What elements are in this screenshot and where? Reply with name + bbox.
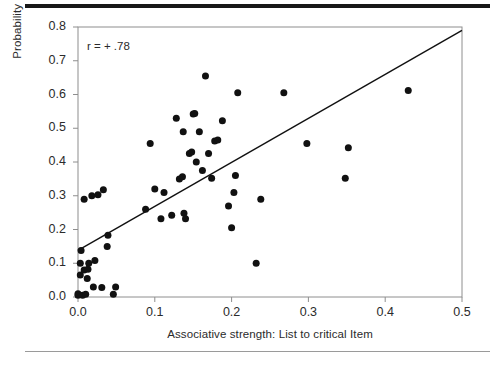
data-point	[345, 144, 352, 151]
data-point	[173, 115, 180, 122]
y-tick-label: 0.2	[30, 222, 66, 236]
y-tick-label: 0.7	[30, 53, 66, 67]
y-axis-ticks	[73, 27, 78, 297]
data-point	[142, 206, 149, 213]
data-point	[230, 189, 237, 196]
data-point	[208, 175, 215, 182]
data-point	[219, 117, 226, 124]
y-tick-label: 0.6	[30, 87, 66, 101]
data-point	[78, 247, 85, 254]
data-point	[342, 175, 349, 182]
y-tick-label: 0.8	[30, 19, 66, 33]
data-point	[157, 215, 164, 222]
data-point	[82, 291, 89, 298]
data-point	[110, 291, 117, 298]
data-point	[94, 191, 101, 198]
data-point	[84, 275, 91, 282]
data-point	[193, 159, 200, 166]
data-point	[196, 128, 203, 135]
data-point	[90, 283, 97, 290]
x-tick-label: 0.3	[288, 305, 328, 319]
data-point	[85, 260, 92, 267]
data-point	[104, 232, 111, 239]
data-point	[182, 215, 189, 222]
data-point	[202, 72, 209, 79]
data-point	[225, 202, 232, 209]
data-point	[88, 192, 95, 199]
data-point	[168, 212, 175, 219]
data-point	[303, 140, 310, 147]
plot-area-border	[78, 27, 462, 297]
x-axis-ticks	[78, 297, 462, 302]
data-point	[405, 87, 412, 94]
y-tick-label: 0.1	[30, 255, 66, 269]
data-point	[112, 283, 119, 290]
data-point	[199, 167, 206, 174]
data-point	[228, 224, 235, 231]
data-point	[77, 260, 84, 267]
data-point	[188, 148, 195, 155]
x-tick-label: 0.5	[442, 305, 482, 319]
figure-frame: Probability of false recall Associative …	[0, 0, 498, 366]
y-axis-title: Probability of false recall	[11, 0, 29, 98]
data-point	[232, 172, 239, 179]
y-tick-label: 0.3	[30, 188, 66, 202]
x-tick-label: 0.4	[365, 305, 405, 319]
data-point	[257, 196, 264, 203]
data-point	[179, 173, 186, 180]
data-point	[253, 260, 260, 267]
data-point	[280, 89, 287, 96]
data-point	[147, 140, 154, 147]
x-tick-label: 0.2	[212, 305, 252, 319]
data-point	[104, 243, 111, 250]
data-point	[180, 128, 187, 135]
y-tick-label: 0.0	[30, 289, 66, 303]
data-point	[91, 257, 98, 264]
data-point	[84, 266, 91, 273]
data-point	[191, 110, 198, 117]
plot-frame	[78, 27, 462, 297]
data-point	[205, 150, 212, 157]
data-point	[214, 137, 221, 144]
correlation-annotation: r = + .78	[87, 40, 130, 52]
x-axis-title: Associative strength: List to critical I…	[78, 328, 462, 340]
data-point	[100, 186, 107, 193]
data-point	[161, 189, 168, 196]
data-point	[151, 186, 158, 193]
x-tick-label: 0.1	[135, 305, 175, 319]
data-point	[81, 196, 88, 203]
y-tick-label: 0.4	[30, 154, 66, 168]
data-point	[234, 89, 241, 96]
data-point	[98, 284, 105, 291]
x-tick-label: 0.0	[58, 305, 98, 319]
y-tick-label: 0.5	[30, 120, 66, 134]
